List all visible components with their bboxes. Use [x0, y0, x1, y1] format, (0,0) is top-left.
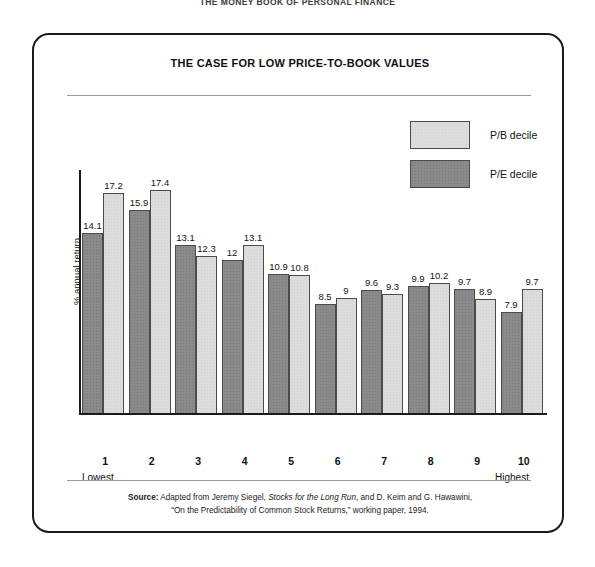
bar-value-label: 9 — [343, 285, 348, 296]
x-tick-3: 3 — [175, 455, 222, 467]
bar-group: 9.69.3 — [361, 170, 408, 413]
x-tick-7: 7 — [361, 455, 408, 467]
bar-group: 14.117.2 — [82, 170, 129, 413]
bar-pe-decile-8: 9.9 — [408, 286, 429, 413]
bar-pb-decile-1: 17.2 — [103, 193, 124, 413]
bar-group: 9.910.2 — [408, 170, 455, 413]
bar-pb-decile-7: 9.3 — [382, 294, 403, 413]
bar-pb-decile-8: 10.2 — [429, 283, 450, 413]
bar-pb-decile-2: 17.4 — [150, 190, 171, 413]
x-tick-2: 2 — [129, 455, 176, 467]
x-tick-9: 9 — [454, 455, 501, 467]
source-line1-part1: Adapted from Jeremy Siegel, — [158, 493, 268, 502]
bar-pb-decile-9: 8.9 — [475, 299, 496, 413]
x-axis-line — [79, 413, 547, 415]
bar-value-label: 13.1 — [176, 232, 195, 243]
bar-value-label: 8.9 — [479, 286, 492, 297]
bar-pb-decile-10: 9.7 — [522, 289, 543, 413]
bar-value-label: 14.1 — [83, 220, 102, 231]
bar-pe-decile-9: 9.7 — [454, 289, 475, 413]
title-divider — [67, 95, 531, 96]
x-axis-lowest-label: Lowest — [82, 472, 114, 483]
x-tick-6: 6 — [315, 455, 362, 467]
bar-pe-decile-2: 15.9 — [129, 210, 150, 413]
x-tick-4: 4 — [222, 455, 269, 467]
bar-value-label: 9.7 — [525, 276, 538, 287]
x-tick-10: 10 — [501, 455, 548, 467]
bar-value-label: 7.9 — [504, 299, 517, 310]
bar-value-label: 10.9 — [269, 261, 288, 272]
bar-group: 1213.1 — [222, 170, 269, 413]
x-tick-5: 5 — [268, 455, 315, 467]
source-line1-italic: Stocks for the Long Run — [268, 493, 356, 502]
bar-pe-decile-3: 13.1 — [175, 245, 196, 413]
source-line2: “On the Predictability of Common Stock R… — [171, 506, 429, 515]
running-page-header: THE MONEY BOOK OF PERSONAL FINANCE — [0, 0, 595, 7]
bar-group: 10.910.8 — [268, 170, 315, 413]
source-divider — [67, 480, 531, 481]
bar-value-label: 10.2 — [430, 270, 449, 281]
bar-pe-decile-6: 8.5 — [315, 304, 336, 413]
x-axis-highest-label: Highest — [495, 472, 529, 483]
bar-pb-decile-6: 9 — [336, 298, 357, 413]
source-label: Source: — [128, 493, 158, 502]
legend-label-pb: P/B decile — [490, 129, 537, 141]
bar-pe-decile-1: 14.1 — [82, 233, 103, 413]
source-line1-part2: , and D. Keim and G. Hawawini, — [356, 493, 472, 502]
bar-value-label: 9.6 — [365, 277, 378, 288]
bar-value-label: 13.1 — [244, 232, 263, 243]
x-tick-1: 1 — [82, 455, 129, 467]
bar-pe-decile-4: 12 — [222, 260, 243, 413]
bar-pb-decile-4: 13.1 — [243, 245, 264, 413]
source-note: Source: Adapted from Jeremy Siegel, Stoc… — [62, 491, 538, 517]
x-tick-8: 8 — [408, 455, 455, 467]
bar-group: 7.99.7 — [501, 170, 548, 413]
y-axis-line — [79, 170, 81, 413]
bar-value-label: 15.9 — [130, 197, 149, 208]
bar-pe-decile-5: 10.9 — [268, 274, 289, 413]
bar-group: 9.78.9 — [454, 170, 501, 413]
bar-groups: 14.117.215.917.413.112.31213.110.910.88.… — [82, 170, 547, 413]
figure-frame: THE CASE FOR LOW PRICE-TO-BOOK VALUES P/… — [32, 33, 564, 533]
bar-value-label: 17.4 — [151, 177, 170, 188]
bar-pe-decile-10: 7.9 — [501, 312, 522, 413]
x-axis-tick-labels: 12345678910 — [82, 455, 547, 467]
bar-value-label: 12 — [227, 247, 238, 258]
bar-value-label: 17.2 — [104, 180, 123, 191]
bar-value-label: 9.9 — [411, 273, 424, 284]
bar-value-label: 9.7 — [458, 276, 471, 287]
bar-group: 8.59 — [315, 170, 362, 413]
bar-value-label: 8.5 — [318, 291, 331, 302]
bar-group: 13.112.3 — [175, 170, 222, 413]
legend-item-pb: P/B decile — [410, 115, 560, 154]
plot-area: % annual return 14.117.215.917.413.112.3… — [79, 170, 547, 413]
bar-group: 15.917.4 — [129, 170, 176, 413]
bar-value-label: 9.3 — [386, 281, 399, 292]
bar-pb-decile-5: 10.8 — [289, 275, 310, 413]
figure-title: THE CASE FOR LOW PRICE-TO-BOOK VALUES — [34, 57, 566, 69]
legend-swatch-pb-icon — [410, 121, 470, 149]
bar-value-label: 10.8 — [290, 262, 309, 273]
bar-pe-decile-7: 9.6 — [361, 290, 382, 413]
bar-value-label: 12.3 — [197, 243, 216, 254]
bar-pb-decile-3: 12.3 — [196, 256, 217, 413]
